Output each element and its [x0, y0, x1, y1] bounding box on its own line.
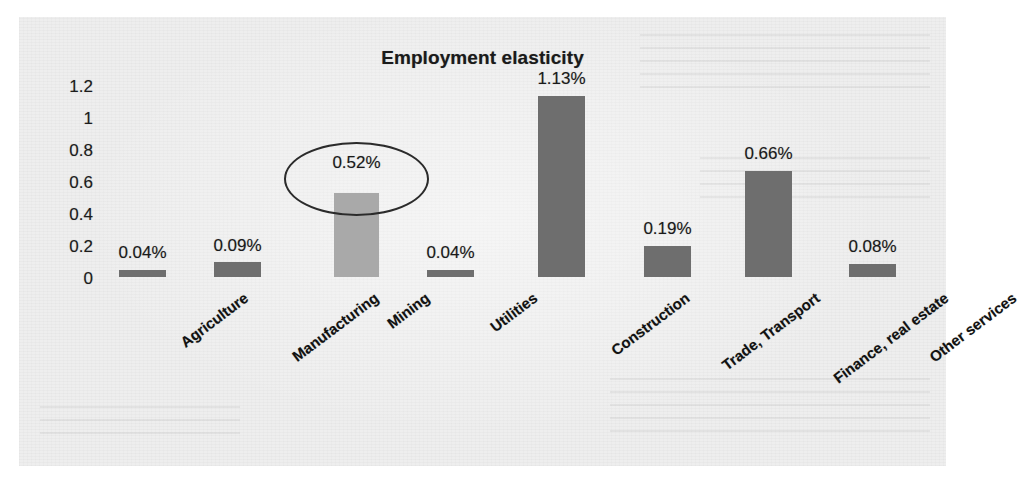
bar-column-construction[interactable]: 1.13% [538, 96, 585, 277]
y-tick-5: 0.4 [35, 206, 93, 223]
bar-value-finance-real-estate: 0.66% [744, 144, 792, 164]
bar-column-other-services[interactable]: 0.08% [849, 264, 896, 277]
category-label-agriculture: Agriculture [177, 289, 251, 351]
bar-other-services[interactable] [849, 264, 896, 277]
bar-column-finance-real-estate[interactable]: 0.66% [745, 171, 792, 277]
y-tick-1: 1.2 [35, 78, 93, 95]
plot-area: 1.2 1 0.8 0.6 0.4 0.2 0 0.04% 0.09% 0.52… [19, 17, 946, 466]
bar-value-utilities: 0.04% [426, 243, 474, 263]
bar-value-other-services: 0.08% [848, 237, 896, 257]
bar-agriculture[interactable] [119, 270, 166, 277]
bar-manufacturing[interactable] [214, 262, 261, 277]
y-tick-6: 0.2 [35, 238, 93, 255]
bar-column-agriculture[interactable]: 0.04% [119, 270, 166, 277]
category-label-trade-transport: Trade, Transport [719, 289, 823, 373]
category-label-manufacturing: Manufacturing [289, 289, 382, 365]
y-tick-7: 0 [35, 270, 93, 287]
bar-column-trade-transport[interactable]: 0.19% [644, 246, 691, 277]
category-label-finance-real-estate: Finance, real estate [830, 289, 951, 386]
y-tick-4: 0.6 [35, 174, 93, 191]
bar-value-trade-transport: 0.19% [643, 219, 691, 239]
category-label-utilities: Utilities [487, 289, 541, 335]
bar-column-utilities[interactable]: 0.04% [427, 270, 474, 277]
highlight-ellipse-mining [284, 142, 429, 216]
y-tick-2: 1 [35, 110, 93, 127]
bar-construction[interactable] [538, 96, 585, 277]
bar-value-agriculture: 0.04% [118, 243, 166, 263]
y-tick-3: 0.8 [35, 142, 93, 159]
bar-finance-real-estate[interactable] [745, 171, 792, 277]
employment-elasticity-chart: Employment elasticity 1.2 1 0.8 0.6 0.4 … [19, 17, 946, 466]
bar-value-manufacturing: 0.09% [213, 236, 261, 256]
category-label-mining: Mining [384, 289, 433, 332]
bar-utilities[interactable] [427, 270, 474, 277]
bar-trade-transport[interactable] [644, 246, 691, 277]
bar-value-construction: 1.13% [537, 69, 585, 89]
bar-column-manufacturing[interactable]: 0.09% [214, 262, 261, 277]
category-label-construction: Construction [608, 289, 693, 359]
